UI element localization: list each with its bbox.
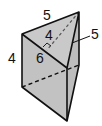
label-base-edge: 6: [36, 50, 44, 66]
label-top-edge: 5: [43, 7, 51, 23]
label-height: 4: [8, 50, 16, 66]
label-altitude: 4: [45, 27, 53, 43]
triangular-prism-diagram: 5 4 6 5 4: [0, 0, 102, 126]
label-right-edge: 5: [91, 26, 99, 42]
